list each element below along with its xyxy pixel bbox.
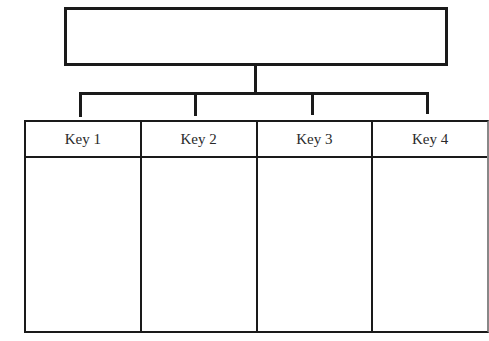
- key-table: Key 1 Key 2 Key 3 Key 4: [24, 120, 489, 333]
- main-topic-box: [64, 7, 448, 66]
- connector-drop-3: [311, 92, 314, 115]
- key-column-4: Key 4: [373, 122, 487, 331]
- key-column-1: Key 1: [26, 122, 142, 331]
- key-header-2: Key 2: [142, 122, 256, 158]
- key-column-3: Key 3: [258, 122, 374, 331]
- key-column-2: Key 2: [142, 122, 258, 331]
- connector-bar: [79, 92, 429, 95]
- key-body-2: [142, 158, 256, 331]
- key-header-4: Key 4: [373, 122, 487, 158]
- connector-drop-4: [426, 92, 429, 114]
- key-header-1: Key 1: [26, 122, 140, 158]
- key-body-4: [373, 158, 487, 331]
- key-body-3: [258, 158, 372, 331]
- connector-drop-2: [194, 92, 197, 116]
- connector-drop-1: [79, 92, 82, 117]
- key-header-3: Key 3: [258, 122, 372, 158]
- connector-stem: [254, 63, 257, 93]
- key-body-1: [26, 158, 140, 331]
